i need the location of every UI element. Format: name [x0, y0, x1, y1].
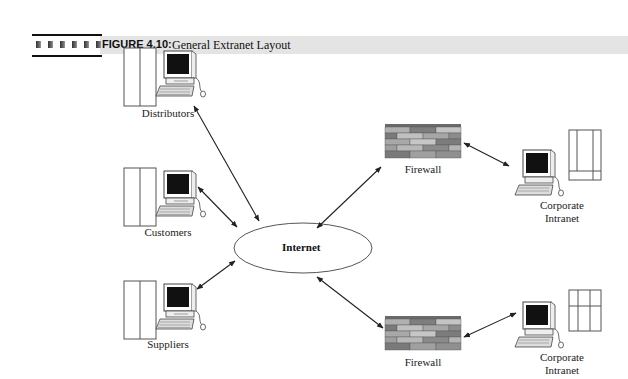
distributors-node	[124, 48, 206, 106]
customers-node	[124, 168, 206, 226]
intranet-top-label-line2: Intranet	[522, 212, 602, 225]
firewall-top-label: Firewall	[385, 163, 461, 176]
computer-with-server-icon	[124, 48, 206, 106]
arrow-distributors-internet	[194, 106, 259, 221]
intranet-top-label: Corporate Intranet	[522, 199, 602, 225]
distributors-label: Distributors	[124, 107, 212, 120]
connection-arrows	[194, 106, 516, 337]
computer-with-server-icon	[124, 281, 206, 339]
customers-label: Customers	[124, 226, 212, 239]
internet-label: Internet	[282, 241, 321, 253]
intranet-bottom-label: Corporate Intranet	[522, 351, 602, 377]
arrow-internet-firewall-bottom	[317, 277, 383, 328]
computer-with-server-icon	[124, 168, 206, 226]
firewall-bottom-label: Firewall	[385, 356, 461, 369]
brick-wall-icon	[385, 124, 461, 158]
extranet-diagram	[0, 0, 628, 379]
arrow-firewall-top-intranet-top	[464, 143, 509, 166]
firewall-bottom-node	[385, 316, 461, 350]
intranet-bottom-label-line1: Corporate	[522, 351, 602, 364]
intranet-bottom-label-line2: Intranet	[522, 364, 602, 377]
intranet-top-label-line1: Corporate	[522, 199, 602, 212]
intranet-bottom-node	[515, 290, 601, 348]
arrow-firewall-bottom-intranet-bottom	[464, 313, 516, 337]
suppliers-node	[124, 281, 206, 339]
arrow-customers-internet	[198, 187, 237, 227]
intranet-top-node	[515, 130, 601, 196]
suppliers-label: Suppliers	[124, 338, 212, 351]
firewall-top-node	[385, 124, 461, 158]
arrow-internet-firewall-top	[317, 167, 381, 228]
arrow-suppliers-internet	[197, 261, 235, 289]
brick-wall-icon	[385, 316, 461, 350]
